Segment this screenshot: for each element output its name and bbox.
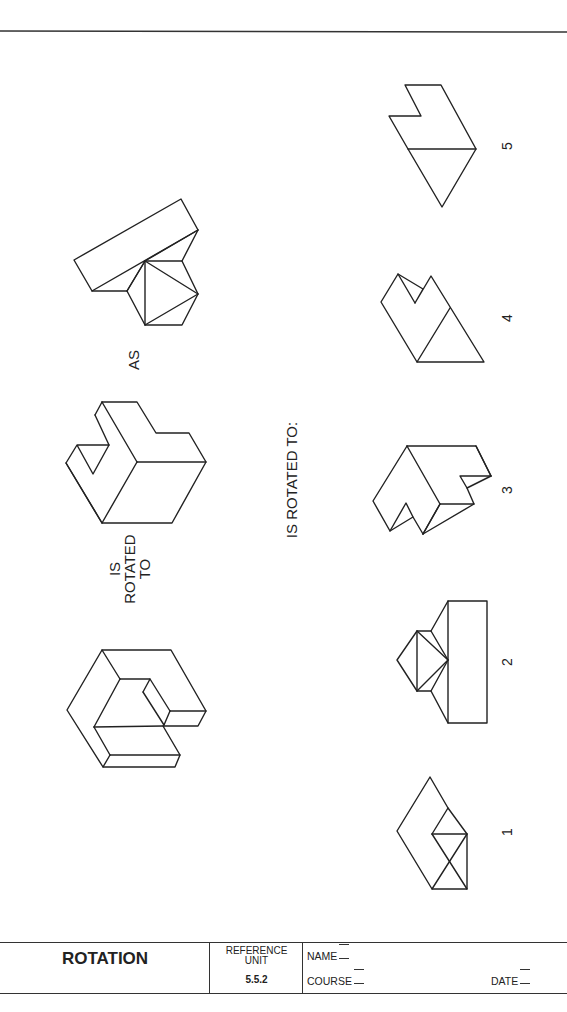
rotated-word: ROTATED bbox=[122, 524, 137, 614]
worksheet-page: IS ROTATED TO AS IS ROTATED TO: 1 2 3 4 … bbox=[0, 0, 567, 1012]
reference-cell: REFERENCE UNIT 5.5.2 bbox=[210, 943, 303, 993]
reference-label: REFERENCE UNIT bbox=[210, 946, 303, 966]
choice-number-4: 4 bbox=[499, 311, 515, 325]
figure-given-original bbox=[67, 650, 206, 767]
date-field[interactable]: DATE bbox=[491, 974, 530, 987]
course-label: COURSE bbox=[307, 975, 352, 987]
choice-number-5: 5 bbox=[499, 139, 515, 153]
choice-figure-1[interactable] bbox=[397, 777, 467, 889]
worksheet-title: ROTATION bbox=[0, 949, 210, 969]
choice-figure-5[interactable] bbox=[389, 85, 476, 207]
to-word: TO bbox=[137, 524, 152, 614]
choice-figure-4[interactable] bbox=[381, 274, 484, 362]
choice-number-1: 1 bbox=[499, 825, 515, 839]
is-rotated-to-question: IS ROTATED TO: bbox=[283, 410, 301, 550]
is-word: IS bbox=[107, 524, 122, 614]
top-rule bbox=[0, 31, 567, 32]
title-block: ROTATION REFERENCE UNIT 5.5.2 NAME COURS… bbox=[0, 942, 567, 994]
choice-figure-3[interactable] bbox=[373, 446, 491, 534]
is-rotated-to-label: IS ROTATED TO bbox=[107, 524, 159, 614]
course-blank[interactable] bbox=[354, 973, 364, 984]
course-field[interactable]: COURSE bbox=[307, 974, 364, 987]
choice-number-2: 2 bbox=[499, 655, 515, 669]
name-blank[interactable] bbox=[339, 948, 349, 959]
choice-number-3: 3 bbox=[499, 483, 515, 497]
date-blank[interactable] bbox=[520, 973, 530, 984]
info-cell: NAME COURSE DATE bbox=[303, 943, 567, 993]
name-field[interactable]: NAME bbox=[307, 949, 349, 962]
figure-given-rotated bbox=[66, 402, 206, 523]
date-label: DATE bbox=[491, 975, 518, 987]
choice-figure-2[interactable] bbox=[397, 601, 487, 723]
as-label: AS bbox=[125, 345, 141, 375]
reference-number: 5.5.2 bbox=[210, 974, 303, 985]
figure-given-reference bbox=[74, 199, 198, 325]
name-label: NAME bbox=[307, 950, 337, 962]
reference-label-line2: UNIT bbox=[210, 956, 303, 966]
title-cell: ROTATION bbox=[0, 943, 210, 993]
